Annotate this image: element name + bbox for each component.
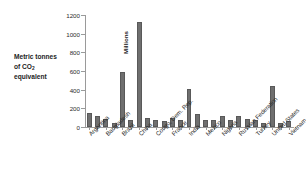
x-axis-labels: ArgentinaBangladeshBrazilChinaCongo, Dem… (0, 0, 306, 186)
chart-container: Metric tonnes of CO2 equivalent Millions… (0, 0, 306, 186)
x-axis-label: India (187, 123, 201, 137)
x-axis-label: Nigeria (220, 119, 238, 137)
x-axis-label: Brazil (120, 121, 136, 137)
x-axis-label: Mexico (204, 119, 222, 137)
x-axis-label: China (137, 121, 153, 137)
